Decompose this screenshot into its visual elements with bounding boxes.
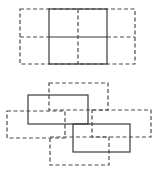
- bottom-dashed-bottom-rect: [50, 137, 109, 165]
- bottom-solid-lower-right-rect: [73, 124, 130, 152]
- bottom-figure: [7, 83, 151, 165]
- top-figure: [20, 9, 135, 64]
- diagram-canvas: [0, 0, 160, 177]
- bottom-solid-upper-left-rect: [28, 95, 88, 124]
- bottom-dashed-top-rect: [49, 83, 108, 110]
